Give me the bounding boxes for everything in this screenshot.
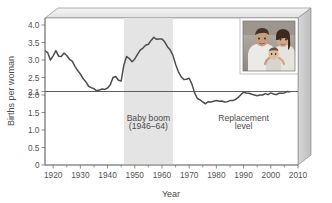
y-axis-title: Births per woman (6, 56, 16, 126)
y-tick-label: 1.5 (28, 108, 40, 118)
x-tick-label: 1940 (98, 170, 117, 180)
x-tick-label: 1970 (180, 170, 199, 180)
x-tick-group: 1920193019401950196019701980199020002010 (44, 165, 308, 180)
x-axis-title: Year (162, 189, 180, 199)
y-axis: 00.51.01.52.02.12.53.03.54.0 Births per … (6, 18, 45, 170)
x-tick-label: 1950 (126, 170, 145, 180)
x-tick-label: 1980 (207, 170, 226, 180)
x-tick-label: 1990 (234, 170, 253, 180)
frame-right-panel (298, 8, 311, 165)
fertility-rate-chart-figure: 00.51.01.52.02.12.53.03.54.0 Births per … (0, 0, 332, 203)
y-tick-label: 1.0 (28, 125, 40, 135)
y-tick-label: 0.5 (28, 143, 40, 153)
chart-canvas: 00.51.01.52.02.12.53.03.54.0 Births per … (0, 0, 332, 203)
family-photo-image (243, 21, 296, 71)
x-tick-label: 2000 (262, 170, 281, 180)
y-tick-label: 4.0 (28, 20, 40, 30)
y-tick-group: 00.51.01.52.02.12.53.03.54.0 (28, 20, 45, 170)
y-tick-label: 2.5 (28, 73, 40, 83)
y-tick-label: 3.5 (28, 38, 40, 48)
x-axis: 1920193019401950196019701980199020002010… (44, 165, 308, 199)
y-tick-label: 2.1 (28, 87, 40, 97)
family-photo-inset (240, 18, 298, 74)
x-tick-label: 1930 (71, 170, 90, 180)
replacement-label-line2: level (235, 121, 253, 131)
x-tick-label: 1920 (44, 170, 63, 180)
y-tick-label: 3.0 (28, 55, 40, 65)
x-tick-label: 2010 (289, 170, 308, 180)
x-tick-label: 1960 (153, 170, 172, 180)
baby-boom-label-line2: (1946–64) (129, 121, 168, 131)
y-tick-label: 0 (35, 160, 40, 170)
frame-top-panel (45, 8, 311, 18)
